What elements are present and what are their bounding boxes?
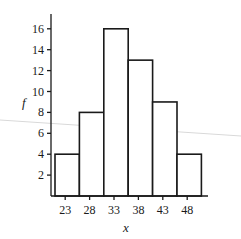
histogram-bar-43 bbox=[153, 102, 177, 196]
y-tick-label: 6 bbox=[38, 126, 44, 140]
histogram-bar-33 bbox=[104, 29, 128, 196]
x-tick-label: 23 bbox=[59, 203, 71, 217]
y-tick-label: 12 bbox=[32, 64, 44, 78]
y-tick-label: 2 bbox=[38, 168, 44, 182]
histogram-bar-23 bbox=[55, 154, 79, 196]
x-axis: 232833384348 bbox=[51, 196, 208, 217]
x-tick-label: 38 bbox=[132, 203, 144, 217]
y-tick-label: 4 bbox=[38, 147, 44, 161]
y-axis-label: f bbox=[22, 95, 28, 110]
histogram-chart: 246810121416 232833384348 f x bbox=[0, 0, 241, 239]
y-tick-label: 10 bbox=[32, 85, 44, 99]
x-axis-label: x bbox=[122, 220, 129, 235]
y-tick-label: 8 bbox=[38, 105, 44, 119]
y-tick-label: 16 bbox=[32, 22, 44, 36]
x-tick-label: 48 bbox=[181, 203, 193, 217]
histogram-bar-28 bbox=[79, 112, 103, 196]
y-tick-label: 14 bbox=[32, 43, 44, 57]
histogram-bar-38 bbox=[128, 60, 152, 196]
histogram-bar-48 bbox=[177, 154, 201, 196]
y-axis: 246810121416 bbox=[32, 14, 51, 196]
bars-group bbox=[55, 29, 201, 196]
x-tick-label: 43 bbox=[157, 203, 169, 217]
x-tick-label: 33 bbox=[108, 203, 120, 217]
x-tick-label: 28 bbox=[84, 203, 96, 217]
